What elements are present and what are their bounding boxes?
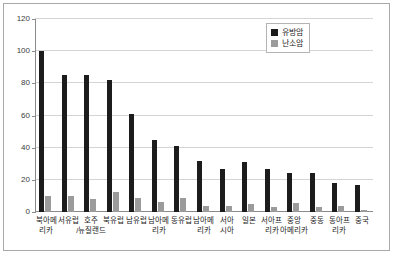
chart-legend: 유방암난소암 xyxy=(266,23,310,53)
bar xyxy=(129,114,134,212)
bar xyxy=(332,183,337,212)
bar xyxy=(107,80,112,212)
bar xyxy=(152,140,157,212)
category-axis-labels: 북아메 리카서유럽호주 /뉴질랜드북유럽남유럽남아메 리카동유럽남아메 리카서아… xyxy=(35,216,373,252)
bar-group xyxy=(103,19,126,212)
bar xyxy=(135,198,141,212)
bar xyxy=(361,210,367,212)
bar xyxy=(158,202,164,212)
bar xyxy=(62,75,67,212)
value-axis-tick-label: 60 xyxy=(21,112,30,120)
bar xyxy=(84,75,89,212)
bar xyxy=(220,169,225,212)
bar-group xyxy=(215,19,238,212)
bar xyxy=(338,206,344,212)
legend-item[interactable]: 난소암 xyxy=(271,38,303,49)
value-axis-tick-label: 0 xyxy=(26,208,30,216)
value-axis-tick-label: 20 xyxy=(21,176,30,184)
bar xyxy=(271,207,277,212)
bar xyxy=(287,173,292,212)
bar-group xyxy=(193,19,216,212)
bar-group xyxy=(58,19,81,212)
bar xyxy=(310,173,315,212)
legend-item-label: 난소암 xyxy=(282,40,303,48)
bar xyxy=(265,169,270,212)
bar xyxy=(68,196,74,212)
bar xyxy=(226,206,232,212)
bar-group xyxy=(170,19,193,212)
bar-group xyxy=(35,19,58,212)
legend-item-label: 유방암 xyxy=(282,29,303,37)
bar xyxy=(316,207,322,212)
legend-swatch-icon xyxy=(271,29,278,36)
tick-mark xyxy=(32,116,35,117)
bar xyxy=(248,204,254,212)
tick-mark xyxy=(32,180,35,181)
bar xyxy=(293,203,299,212)
bar xyxy=(90,199,96,212)
value-axis-tick-label: 100 xyxy=(17,47,30,55)
bar xyxy=(174,146,179,212)
tick-mark xyxy=(32,51,35,52)
tick-mark xyxy=(32,83,35,84)
tick-mark xyxy=(32,148,35,149)
bar xyxy=(113,192,119,212)
legend-swatch-icon xyxy=(271,40,278,47)
bar-group xyxy=(350,19,373,212)
value-axis-tick-label: 40 xyxy=(21,144,30,152)
bar xyxy=(242,162,247,212)
tick-mark xyxy=(32,212,35,213)
bar xyxy=(203,206,209,212)
bar-group xyxy=(125,19,148,212)
value-axis-tick-label: 80 xyxy=(21,79,30,87)
value-axis: 020406080100120 xyxy=(35,19,36,213)
plot-area xyxy=(35,19,373,212)
chart-frame: 020406080100120 북아메 리카서유럽호주 /뉴질랜드북유럽남유럽남… xyxy=(3,3,390,251)
category-axis-label: 중국 xyxy=(343,216,381,226)
bar xyxy=(180,198,186,212)
bar xyxy=(355,185,360,212)
legend-item[interactable]: 유방암 xyxy=(271,27,303,38)
bar xyxy=(39,51,44,212)
bar-group xyxy=(148,19,171,212)
bar xyxy=(45,196,51,212)
value-axis-tick-label: 120 xyxy=(17,15,30,23)
bar xyxy=(197,161,202,212)
bar-group xyxy=(80,19,103,212)
bar-group xyxy=(238,19,261,212)
bar-group xyxy=(328,19,351,212)
tick-mark xyxy=(32,19,35,20)
